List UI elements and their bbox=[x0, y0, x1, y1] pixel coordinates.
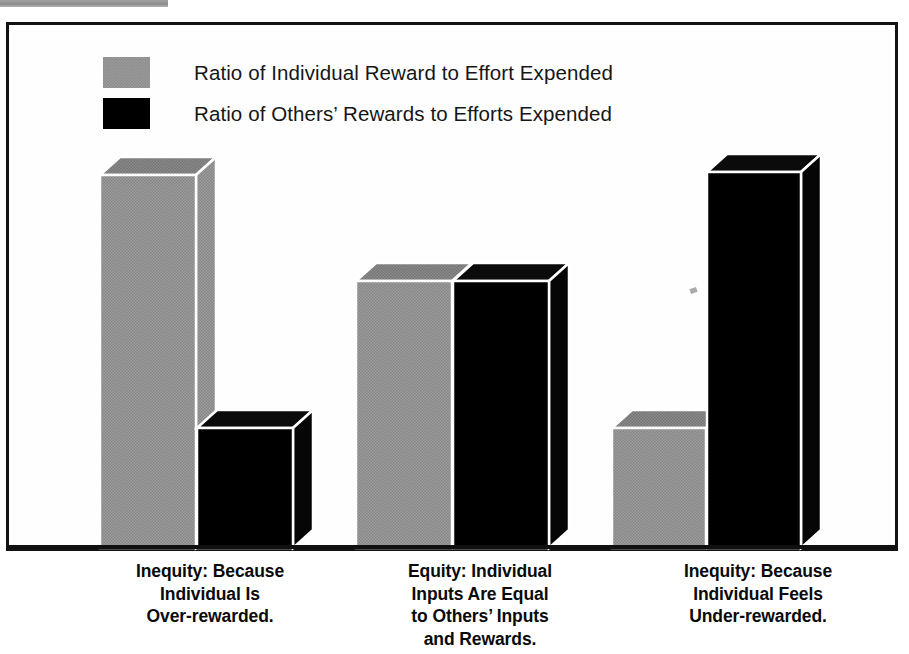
category-axis-labels: Inequity: Because Individual Is Over-rew… bbox=[0, 560, 909, 654]
category-label-1: Inequity: Because Individual Is Over-rew… bbox=[64, 560, 356, 628]
category-label-3-line-3: Under-rewarded. bbox=[612, 605, 904, 628]
scan-artifact-strip bbox=[0, 0, 168, 7]
category-label-2-line-4: and Rewards. bbox=[334, 628, 626, 651]
category-label-2: Equity: Individual Inputs Are Equal to O… bbox=[334, 560, 626, 650]
legend-label-others: Ratio of Others’ Rewards to Efforts Expe… bbox=[194, 102, 612, 126]
category-label-2-line-2: Inputs Are Equal bbox=[334, 583, 626, 606]
legend-entry-individual: Ratio of Individual Reward to Effort Exp… bbox=[103, 57, 613, 88]
category-label-3-line-2: Individual Feels bbox=[612, 583, 904, 606]
category-label-3: Inequity: Because Individual Feels Under… bbox=[612, 560, 904, 628]
category-label-1-line-1: Inequity: Because bbox=[64, 560, 356, 583]
category-label-3-line-1: Inequity: Because bbox=[612, 560, 904, 583]
chart-page: Ratio of Individual Reward to Effort Exp… bbox=[0, 0, 909, 654]
category-label-1-line-3: Over-rewarded. bbox=[64, 605, 356, 628]
category-label-2-line-1: Equity: Individual bbox=[334, 560, 626, 583]
legend-entry-others: Ratio of Others’ Rewards to Efforts Expe… bbox=[103, 98, 612, 129]
category-label-1-line-2: Individual Is bbox=[64, 583, 356, 606]
black-swatch-icon bbox=[103, 98, 150, 129]
legend-label-individual: Ratio of Individual Reward to Effort Exp… bbox=[194, 61, 613, 85]
category-label-2-line-3: to Others’ Inputs bbox=[334, 605, 626, 628]
gray-swatch-icon bbox=[103, 57, 150, 88]
